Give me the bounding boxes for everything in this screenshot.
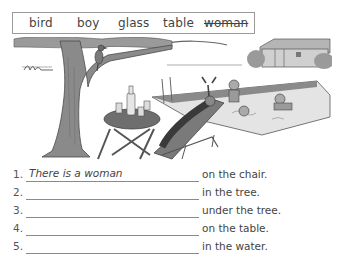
answer-blank-line[interactable] [26,181,199,182]
garden-illustration [12,37,332,165]
house-icon [247,39,332,69]
answer-blank-line[interactable] [26,199,199,200]
table-icon [98,109,160,159]
sentence-number: 2. [13,186,23,198]
sentence-ending: in the water. [202,240,268,252]
sentence-ending: on the chair. [202,168,267,180]
sentence-row-3: 3. under the tree. [0,203,343,221]
sentence-row-2: 2. in the tree. [0,185,343,203]
sentence-row-1: 1. There is a woman on the chair. [0,167,343,185]
word-glass: glass [118,16,149,30]
word-boy: boy [77,16,99,30]
sentence-number: 3. [13,204,23,216]
answer-text: There is a woman [29,167,122,179]
sentence-number: 1. [13,168,23,180]
word-woman-crossed-out: woman [204,16,248,30]
sentence-number: 4. [13,222,23,234]
word-box: bird boy glass table woman [12,12,255,34]
sentence-ending: under the tree. [202,204,281,216]
answer-blank-line[interactable] [26,217,199,218]
sentence-number: 5. [13,240,23,252]
sentence-ending: in the tree. [202,186,260,198]
sentence-row-4: 4. on the table. [0,221,343,239]
sentence-row-5: 5. in the water. [0,239,343,257]
word-bird: bird [29,16,53,30]
bottle-icon [127,86,135,115]
answer-blank-line[interactable] [26,253,199,254]
word-table: table [163,16,194,30]
sentence-ending: on the table. [202,222,269,234]
answer-blank-line[interactable] [26,235,199,236]
